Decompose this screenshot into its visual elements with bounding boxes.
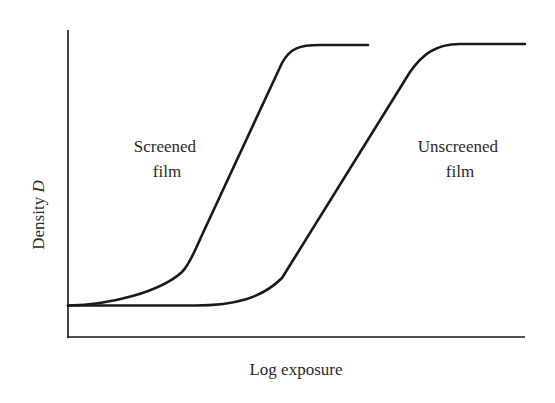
y-axis-label: Density D: [29, 180, 48, 250]
screened-film-label: Screened film: [134, 137, 201, 181]
unscreened-film-label: Unscreened film: [418, 137, 503, 181]
characteristic-curve-chart: Screened film Unscreened film Density D …: [0, 0, 555, 403]
screened-film-curve: [68, 45, 368, 306]
x-axis-label: Log exposure: [249, 360, 342, 379]
